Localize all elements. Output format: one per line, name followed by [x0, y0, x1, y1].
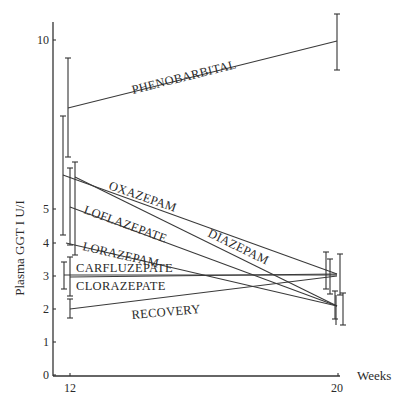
x-tick-label: 20: [331, 381, 343, 395]
y-tick-label: 3: [43, 269, 49, 283]
series-label: RECOVERY: [131, 302, 201, 322]
x-tick-label: 12: [64, 381, 76, 395]
y-tick-label: 10: [37, 33, 49, 47]
y-tick-labels: 0 1 2 3 4 5 10: [37, 33, 49, 382]
series-label: PHENOBARBITAL: [130, 57, 237, 96]
y-tick-label: 0: [43, 368, 49, 382]
series-label: CARFLUZEPATE: [76, 261, 173, 275]
series-label: OXAZEPAM: [107, 179, 178, 215]
series-phenobarbital: PHENOBARBITAL: [65, 14, 340, 157]
series-label: CLORAZEPATE: [76, 279, 166, 293]
x-axis-label: Weeks: [357, 368, 391, 383]
y-tick-label: 5: [43, 202, 49, 216]
y-axis-label: Plasma GGT I U/I: [12, 200, 27, 295]
y-tick-label: 4: [43, 236, 49, 250]
y-tick-label: 1: [43, 335, 49, 349]
y-tick-label: 2: [43, 302, 49, 316]
ggt-line-chart: 0 1 2 3 4 5 10 12 20 Weeks Plasma GGT I …: [0, 0, 406, 402]
